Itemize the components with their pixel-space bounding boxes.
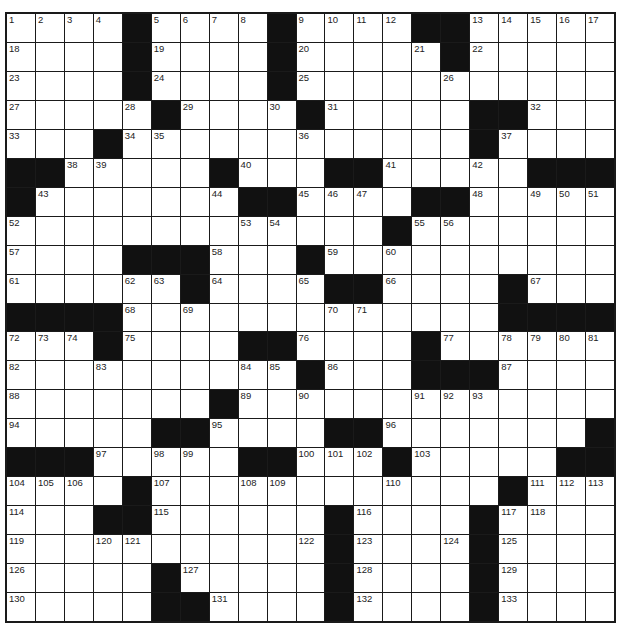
grid-cell[interactable]: [557, 564, 585, 592]
grid-cell[interactable]: [412, 246, 440, 274]
grid-cell[interactable]: [528, 564, 556, 592]
grid-cell[interactable]: [65, 593, 93, 621]
grid-cell[interactable]: [65, 43, 93, 71]
grid-cell[interactable]: [557, 72, 585, 100]
grid-cell[interactable]: [586, 217, 614, 245]
grid-cell[interactable]: [181, 43, 209, 71]
grid-cell[interactable]: 63: [152, 275, 180, 303]
grid-cell[interactable]: [383, 101, 411, 129]
grid-cell[interactable]: [528, 390, 556, 418]
grid-cell[interactable]: [36, 593, 64, 621]
grid-cell[interactable]: [383, 535, 411, 563]
grid-cell[interactable]: [441, 564, 469, 592]
grid-cell[interactable]: [36, 506, 64, 534]
grid-cell[interactable]: [239, 246, 267, 274]
grid-cell[interactable]: [354, 332, 382, 360]
grid-cell[interactable]: [239, 43, 267, 71]
grid-cell[interactable]: [586, 564, 614, 592]
grid-cell[interactable]: [181, 477, 209, 505]
grid-cell[interactable]: [528, 246, 556, 274]
grid-cell[interactable]: 18: [7, 43, 35, 71]
grid-cell[interactable]: 116: [354, 506, 382, 534]
grid-cell[interactable]: 26: [441, 72, 469, 100]
grid-cell[interactable]: [557, 419, 585, 447]
grid-cell[interactable]: 30: [268, 101, 296, 129]
grid-cell[interactable]: [557, 593, 585, 621]
grid-cell[interactable]: 66: [383, 275, 411, 303]
grid-cell[interactable]: [94, 246, 122, 274]
grid-cell[interactable]: [36, 564, 64, 592]
grid-cell[interactable]: 121: [123, 535, 151, 563]
grid-cell[interactable]: [470, 246, 498, 274]
grid-cell[interactable]: [354, 43, 382, 71]
grid-cell[interactable]: [268, 159, 296, 187]
grid-cell[interactable]: [528, 361, 556, 389]
grid-cell[interactable]: [557, 390, 585, 418]
grid-cell[interactable]: [586, 535, 614, 563]
grid-cell[interactable]: 98: [152, 448, 180, 476]
grid-cell[interactable]: 3: [65, 14, 93, 42]
grid-cell[interactable]: [354, 246, 382, 274]
grid-cell[interactable]: [210, 72, 238, 100]
grid-cell[interactable]: [210, 217, 238, 245]
grid-cell[interactable]: 130: [7, 593, 35, 621]
grid-cell[interactable]: 5: [152, 14, 180, 42]
grid-cell[interactable]: [557, 217, 585, 245]
grid-cell[interactable]: [36, 246, 64, 274]
grid-cell[interactable]: [94, 564, 122, 592]
grid-cell[interactable]: [65, 130, 93, 158]
grid-cell[interactable]: [470, 217, 498, 245]
grid-cell[interactable]: 9: [297, 14, 325, 42]
grid-cell[interactable]: 60: [383, 246, 411, 274]
grid-cell[interactable]: [383, 188, 411, 216]
grid-cell[interactable]: 74: [65, 332, 93, 360]
grid-cell[interactable]: 102: [354, 448, 382, 476]
grid-cell[interactable]: [210, 535, 238, 563]
grid-cell[interactable]: [36, 130, 64, 158]
grid-cell[interactable]: 50: [557, 188, 585, 216]
grid-cell[interactable]: 56: [441, 217, 469, 245]
grid-cell[interactable]: [557, 246, 585, 274]
grid-cell[interactable]: [586, 506, 614, 534]
grid-cell[interactable]: 22: [470, 43, 498, 71]
grid-cell[interactable]: [181, 72, 209, 100]
grid-cell[interactable]: [325, 130, 353, 158]
grid-cell[interactable]: [239, 564, 267, 592]
grid-cell[interactable]: [383, 593, 411, 621]
grid-cell[interactable]: 131: [210, 593, 238, 621]
grid-cell[interactable]: 94: [7, 419, 35, 447]
grid-cell[interactable]: [181, 361, 209, 389]
grid-cell[interactable]: [528, 130, 556, 158]
grid-cell[interactable]: [36, 419, 64, 447]
grid-cell[interactable]: [123, 448, 151, 476]
grid-cell[interactable]: 71: [354, 304, 382, 332]
grid-cell[interactable]: [412, 564, 440, 592]
grid-cell[interactable]: 12: [383, 14, 411, 42]
grid-cell[interactable]: 54: [268, 217, 296, 245]
grid-cell[interactable]: 117: [499, 506, 527, 534]
grid-cell[interactable]: [470, 448, 498, 476]
grid-cell[interactable]: [325, 390, 353, 418]
grid-cell[interactable]: [325, 332, 353, 360]
grid-cell[interactable]: [383, 130, 411, 158]
grid-cell[interactable]: [239, 101, 267, 129]
grid-cell[interactable]: 97: [94, 448, 122, 476]
grid-cell[interactable]: [239, 506, 267, 534]
grid-cell[interactable]: 13: [470, 14, 498, 42]
grid-cell[interactable]: [499, 246, 527, 274]
grid-cell[interactable]: [325, 477, 353, 505]
grid-cell[interactable]: [412, 593, 440, 621]
grid-cell[interactable]: [499, 188, 527, 216]
grid-cell[interactable]: [499, 217, 527, 245]
grid-cell[interactable]: 114: [7, 506, 35, 534]
grid-cell[interactable]: [65, 246, 93, 274]
grid-cell[interactable]: [557, 130, 585, 158]
grid-cell[interactable]: 1: [7, 14, 35, 42]
grid-cell[interactable]: 20: [297, 43, 325, 71]
grid-cell[interactable]: [94, 419, 122, 447]
grid-cell[interactable]: [94, 275, 122, 303]
grid-cell[interactable]: 31: [325, 101, 353, 129]
grid-cell[interactable]: [152, 304, 180, 332]
grid-cell[interactable]: [586, 361, 614, 389]
grid-cell[interactable]: 2: [36, 14, 64, 42]
